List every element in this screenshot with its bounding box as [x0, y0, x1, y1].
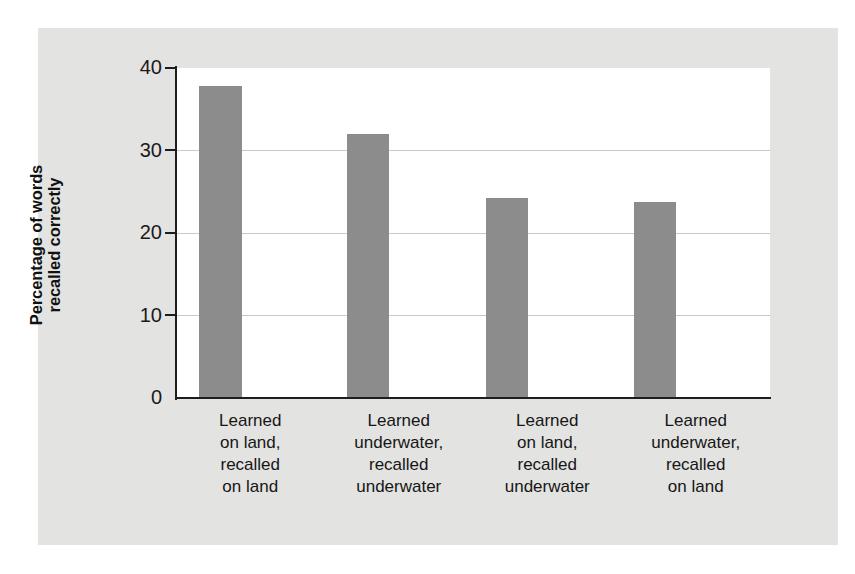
x-tick-label-1-line-3: recalled: [180, 454, 321, 476]
x-tick-label-1-line-4: on land: [180, 476, 321, 498]
x-tick-label-3-line-1: Learned: [477, 410, 618, 432]
x-tick-label-4-line-2: underwater,: [626, 432, 767, 454]
gridline-30: [176, 150, 770, 151]
x-tick-label-2-line-3: recalled: [329, 454, 470, 476]
x-tick-label-4-line-4: on land: [626, 476, 767, 498]
x-tick-label-2-line-1: Learned: [329, 410, 470, 432]
figure: Percentage of words recalled correctly 4…: [0, 0, 855, 574]
x-tick-label-3: Learned on land, recalled underwater: [473, 410, 622, 520]
x-tick-label-4-line-1: Learned: [626, 410, 767, 432]
x-tick-label-2-line-2: underwater,: [329, 432, 470, 454]
bar-learned-underwater-recalled-underwater[interactable]: [347, 134, 389, 398]
x-tick-label-3-line-4: underwater: [477, 476, 618, 498]
y-axis-line: [175, 66, 177, 400]
x-tick-label-2-line-4: underwater: [329, 476, 470, 498]
x-axis-tick-labels: Learned on land, recalled on land Learne…: [176, 410, 770, 520]
x-tick-label-4-line-3: recalled: [626, 454, 767, 476]
bar-learned-underwater-recalled-on-land[interactable]: [634, 202, 676, 398]
gridline-10: [176, 315, 770, 316]
y-tick-label-40: 40: [116, 56, 162, 79]
x-tick-label-1-line-1: Learned: [180, 410, 321, 432]
x-tick-label-3-line-3: recalled: [477, 454, 618, 476]
x-tick-label-2: Learned underwater, recalled underwater: [325, 410, 474, 520]
x-tick-label-4: Learned underwater, recalled on land: [622, 410, 771, 520]
y-tick-label-20: 20: [116, 221, 162, 244]
gridline-20: [176, 233, 770, 234]
y-tick-label-0: 0: [116, 386, 162, 409]
x-tick-label-1-line-2: on land,: [180, 432, 321, 454]
x-tick-label-3-line-2: on land,: [477, 432, 618, 454]
y-axis-title-line-1: Percentage of words: [27, 165, 45, 325]
y-axis-tick-labels: 40 30 20 10 0: [112, 0, 162, 574]
bar-learned-on-land-recalled-underwater[interactable]: [486, 198, 528, 398]
plot-area: [176, 68, 770, 398]
y-tick-label-10: 10: [116, 304, 162, 327]
x-axis-line: [175, 397, 771, 399]
y-axis-title: Percentage of words recalled correctly: [22, 80, 68, 410]
bar-learned-on-land-recalled-on-land[interactable]: [199, 86, 242, 398]
x-tick-label-1: Learned on land, recalled on land: [176, 410, 325, 520]
y-axis-title-line-2: recalled correctly: [45, 178, 63, 313]
y-tick-label-30: 30: [116, 139, 162, 162]
